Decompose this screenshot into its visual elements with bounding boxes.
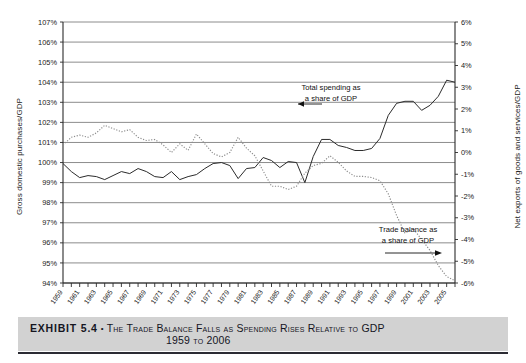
svg-text:a share of GDP: a share of GDP xyxy=(305,94,357,103)
svg-text:1961: 1961 xyxy=(66,288,81,305)
svg-text:1975: 1975 xyxy=(183,288,198,305)
svg-text:1967: 1967 xyxy=(116,288,131,305)
svg-text:6%: 6% xyxy=(461,18,472,27)
svg-text:1995: 1995 xyxy=(349,288,364,305)
svg-text:1973: 1973 xyxy=(166,288,181,305)
svg-text:2%: 2% xyxy=(461,105,472,114)
caption-subtitle: 1959 to 2006 xyxy=(166,334,231,346)
svg-text:1999: 1999 xyxy=(383,288,398,305)
caption-rule xyxy=(18,352,508,354)
svg-text:100%: 100% xyxy=(38,158,57,167)
svg-text:0%: 0% xyxy=(461,148,472,157)
svg-text:1969: 1969 xyxy=(133,288,148,305)
svg-text:103%: 103% xyxy=(38,98,57,107)
svg-text:1977: 1977 xyxy=(199,288,214,305)
svg-text:1985: 1985 xyxy=(266,288,281,305)
svg-text:94%: 94% xyxy=(42,279,57,288)
svg-text:1997: 1997 xyxy=(366,288,381,305)
svg-text:1993: 1993 xyxy=(333,288,348,305)
svg-text:1%: 1% xyxy=(461,126,472,135)
caption-title: The Trade Balance Falls as Spending Rise… xyxy=(107,322,385,334)
exhibit-label: EXHIBIT 5.4 xyxy=(30,322,98,334)
svg-text:1989: 1989 xyxy=(299,288,314,305)
caption-title-line: EXHIBIT 5.4•The Trade Balance Falls as S… xyxy=(30,322,385,334)
svg-text:95%: 95% xyxy=(42,259,57,268)
svg-text:1965: 1965 xyxy=(99,288,114,305)
svg-text:5%: 5% xyxy=(461,39,472,48)
svg-text:107%: 107% xyxy=(38,18,57,27)
svg-text:1979: 1979 xyxy=(216,288,231,305)
svg-text:1991: 1991 xyxy=(316,288,331,305)
svg-text:1981: 1981 xyxy=(233,288,248,305)
svg-text:99%: 99% xyxy=(42,178,57,187)
svg-text:-2%: -2% xyxy=(461,192,475,201)
svg-text:1963: 1963 xyxy=(83,288,98,305)
svg-text:a share of GDP: a share of GDP xyxy=(382,236,434,245)
svg-text:-4%: -4% xyxy=(461,235,475,244)
svg-text:-1%: -1% xyxy=(461,170,475,179)
svg-text:97%: 97% xyxy=(42,218,57,227)
svg-text:96%: 96% xyxy=(42,238,57,247)
caption-separator: • xyxy=(98,324,107,333)
svg-text:-5%: -5% xyxy=(461,257,475,266)
svg-text:106%: 106% xyxy=(38,38,57,47)
svg-text:4%: 4% xyxy=(461,61,472,70)
svg-text:1959: 1959 xyxy=(49,288,64,305)
exhibit-figure: Gross domestic purchases/GDP Net exports… xyxy=(0,0,526,363)
svg-text:1983: 1983 xyxy=(249,288,264,305)
svg-text:2005: 2005 xyxy=(433,288,448,305)
svg-text:1987: 1987 xyxy=(283,288,298,305)
chart-area: Gross domestic purchases/GDP Net exports… xyxy=(0,0,526,305)
svg-text:Total spending as: Total spending as xyxy=(301,83,360,92)
svg-text:Trade balance as: Trade balance as xyxy=(379,225,438,234)
svg-text:2001: 2001 xyxy=(399,288,414,305)
svg-text:1971: 1971 xyxy=(149,288,164,305)
svg-text:98%: 98% xyxy=(42,198,57,207)
svg-text:105%: 105% xyxy=(38,58,57,67)
svg-text:2003: 2003 xyxy=(416,288,431,305)
svg-text:102%: 102% xyxy=(38,118,57,127)
svg-text:101%: 101% xyxy=(38,138,57,147)
svg-text:3%: 3% xyxy=(461,83,472,92)
svg-text:-3%: -3% xyxy=(461,213,475,222)
line-chart-plot: 94%95%96%97%98%99%100%101%102%103%104%10… xyxy=(0,0,526,305)
svg-text:104%: 104% xyxy=(38,78,57,87)
svg-text:-6%: -6% xyxy=(461,279,475,288)
